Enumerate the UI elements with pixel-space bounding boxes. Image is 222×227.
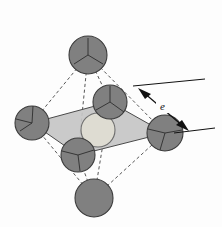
equatorial-sphere-left	[15, 106, 49, 140]
octahedron-figure: e	[0, 0, 222, 227]
octahedron-diagram: e	[0, 0, 222, 227]
apex-sphere-bottom	[75, 179, 113, 217]
apex-sphere-bottom-body	[75, 179, 113, 217]
equatorial-sphere-back	[93, 85, 127, 119]
apex-sphere-top	[69, 36, 107, 74]
dimension-label: e	[160, 100, 165, 112]
equatorial-sphere-front	[61, 138, 95, 172]
